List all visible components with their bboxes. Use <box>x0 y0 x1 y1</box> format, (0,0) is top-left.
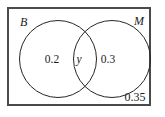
region-value-b-only: 0.2 <box>36 54 68 66</box>
set-label-b: B <box>20 16 27 28</box>
region-value-intersection: y <box>70 54 88 66</box>
venn-diagram-figure: B M 0.2 y 0.3 0.35 <box>0 0 165 117</box>
set-label-m: M <box>134 15 144 27</box>
region-value-outside: 0.35 <box>119 91 151 103</box>
region-value-m-only: 0.3 <box>92 54 124 66</box>
